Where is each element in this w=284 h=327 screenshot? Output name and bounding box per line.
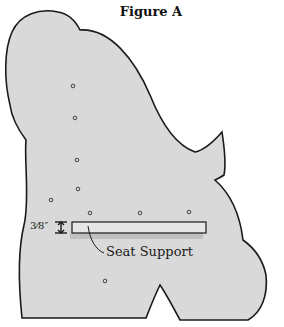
side-panel-diagram <box>0 0 284 327</box>
seat-support-label: Seat Support <box>106 244 193 259</box>
dimension-label: 3⁄8″ <box>30 220 48 231</box>
seat-support-bar <box>72 222 206 233</box>
side-panel-outline <box>6 11 267 320</box>
